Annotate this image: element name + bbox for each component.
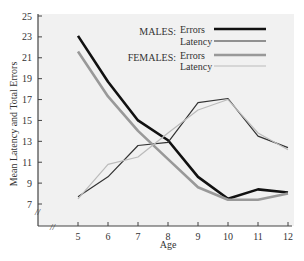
x-tick-label: 12 (283, 231, 293, 242)
y-axis-title: Mean Latency and Total Errors (8, 62, 19, 187)
x-tick-label: 6 (106, 231, 111, 242)
legend-entry-label: Latency (180, 61, 212, 72)
x-tick-label: 10 (223, 231, 233, 242)
y-tick-label: 15 (22, 115, 32, 126)
plot-background (38, 14, 294, 226)
legend-group-label: MALES: (139, 26, 176, 37)
x-tick-label: 5 (76, 231, 81, 242)
y-tick-label: 17 (22, 94, 32, 105)
legend-group-label: FEMALES: (128, 52, 176, 63)
x-tick-label: 7 (136, 231, 141, 242)
x-axis-title: Age (160, 239, 177, 250)
legend-entry-label: Errors (180, 50, 205, 61)
y-tick-label: 9 (27, 178, 32, 189)
y-tick-label: 25 (22, 11, 32, 22)
chart: 79111315171921232556789101112//// MALES:… (0, 0, 304, 261)
x-tick-label: 11 (253, 231, 263, 242)
legend-entry-label: Latency (180, 36, 212, 47)
legend-entry-label: Errors (180, 24, 205, 35)
y-tick-label: 11 (22, 157, 32, 168)
x-tick-label: 9 (196, 231, 201, 242)
y-tick-label: 21 (22, 52, 32, 63)
y-tick-label: 19 (22, 73, 32, 84)
y-tick-label: 13 (22, 136, 32, 147)
y-tick-label: 7 (27, 199, 32, 210)
y-tick-label: 23 (22, 31, 32, 42)
